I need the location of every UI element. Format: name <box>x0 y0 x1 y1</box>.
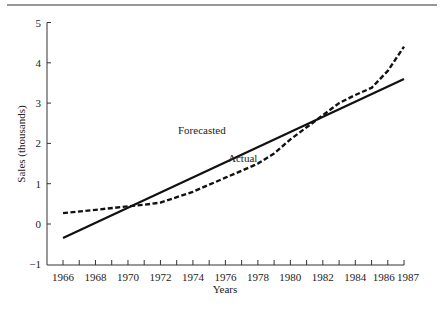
x-tick-label: 1974 <box>182 271 205 283</box>
series-lines <box>63 47 404 238</box>
y-tick-label: 4 <box>36 57 42 69</box>
y-tick-label: 5 <box>36 17 42 29</box>
y-tick-label: 3 <box>36 97 42 109</box>
x-tick-label: 1980 <box>279 271 302 283</box>
actual-line <box>63 47 404 213</box>
x-tick-label: 1986 <box>373 271 396 283</box>
y-tick-label: 0 <box>36 218 42 230</box>
sales-line-chart: −101234519661968197019721974197619781980… <box>0 0 441 309</box>
y-tick-label: 2 <box>36 137 42 149</box>
x-axis-label: Years <box>213 283 238 295</box>
actual-label: Actual <box>228 152 257 164</box>
x-tick-label: 1966 <box>52 271 75 283</box>
y-tick-label: −1 <box>29 258 41 270</box>
x-tick-label: 1987 <box>397 271 420 283</box>
axes: −101234519661968197019721974197619781980… <box>29 17 419 284</box>
x-tick-label: 1976 <box>214 271 237 283</box>
x-tick-label: 1982 <box>312 271 334 283</box>
x-tick-label: 1968 <box>84 271 107 283</box>
x-tick-label: 1972 <box>149 271 171 283</box>
y-tick-label: 1 <box>36 178 42 190</box>
x-tick-label: 1970 <box>117 271 140 283</box>
x-tick-label: 1984 <box>344 271 367 283</box>
forecast-label: Forecasted <box>178 124 226 136</box>
y-axis-label: Sales (thousands) <box>15 105 28 183</box>
x-tick-label: 1978 <box>247 271 270 283</box>
